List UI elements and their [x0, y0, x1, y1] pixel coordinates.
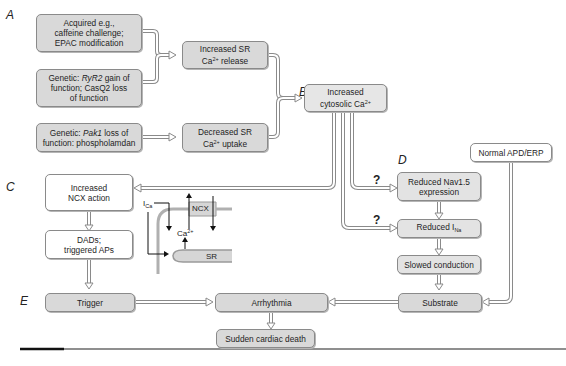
arrow-dads-to-trigger [85, 258, 93, 289]
ncx-line2: NCX action [68, 193, 110, 203]
increased-sr-release-box: Increased SR Ca2+ release [182, 41, 268, 69]
section-label-c: C [6, 180, 15, 194]
nav-line1: Reduced Nav1.5 [408, 177, 470, 187]
acquired-line2: caffeine challenge; [54, 28, 123, 38]
sr-uptake-rest: uptake [220, 139, 247, 149]
scd-label: Sudden cardiac death [225, 334, 306, 344]
arrow-nav-to-ina [435, 201, 443, 219]
cytosolic-line1: Increased [320, 87, 371, 97]
arrow-a-to-release [141, 31, 176, 82]
sr-release-line1: Increased SR [200, 44, 250, 54]
ca-text: Ca [202, 56, 213, 66]
section-label-e: E [20, 294, 28, 308]
cytosolic-text: cytosolic Ca [320, 99, 365, 109]
genetic-ryr2-box: Genetic: RyR2 gain of function; CasQ2 lo… [36, 69, 142, 107]
acquired-line1: Acquired e.g., [54, 18, 123, 28]
acquired-line3: EPAC modification [54, 38, 123, 48]
ca-text: Ca [203, 139, 214, 149]
ryr2-gene: RyR2 [82, 73, 103, 83]
ina-text: Reduced INa [417, 222, 462, 235]
trigger-box: Trigger [45, 293, 135, 312]
question-mark-nav: ? [373, 173, 380, 187]
arrow-pak1-to-uptake [141, 133, 176, 141]
arrow-substrate-to-arrhythmia [328, 298, 398, 306]
acquired-box: Acquired e.g., caffeine challenge; EPAC … [36, 14, 142, 52]
nav-line2: expression [408, 187, 470, 197]
ryr2-line1: Genetic: RyR2 gain of [48, 73, 129, 83]
question-mark-ina: ? [373, 213, 380, 227]
arrhythmia-box: Arrhythmia [215, 293, 328, 312]
arrow-ina-to-slowed [435, 238, 443, 255]
ica-sub: Ca [145, 203, 152, 209]
decreased-sr-uptake-box: Decreased SR Ca2+ uptake [182, 123, 268, 152]
ina-sub: Na [454, 227, 461, 233]
sudden-cardiac-death-box: Sudden cardiac death [216, 329, 315, 348]
cytosolic-line2: cytosolic Ca2+ [320, 97, 371, 109]
section-label-d: D [398, 153, 407, 167]
sr-uptake-line2: Ca2+ uptake [198, 137, 252, 149]
arrow-arrhythmia-to-scd [267, 313, 275, 329]
increased-ncx-box: Increased NCX action [45, 174, 133, 211]
slowed-conduction-box: Slowed conduction [397, 255, 481, 274]
pak1-line2: function: phospholamdan [43, 138, 136, 148]
sr-compartment [173, 250, 232, 262]
arrow-trigger-to-arrhythmia [135, 298, 213, 306]
inset-ca-text: Ca [177, 229, 187, 238]
sr-label: SR [206, 252, 217, 261]
pak1-post: loss of [102, 128, 128, 138]
ica-label: ICa [143, 199, 152, 209]
increased-cytosolic-ca-box: Increased cytosolic Ca2+ [304, 84, 387, 112]
substrate-box: Substrate [398, 293, 482, 312]
normal-apd-label: Normal APD/ERP [478, 148, 543, 158]
ina-main: Reduced I [417, 222, 455, 232]
inset-ca-charge: 2+ [187, 228, 193, 234]
ryr2-post: gain of [102, 73, 129, 83]
trigger-label: Trigger [77, 298, 103, 308]
substrate-label: Substrate [422, 298, 458, 308]
arrow-slowed-to-substrate [435, 273, 443, 290]
inset-ca-label: Ca2+ [177, 228, 194, 238]
ncx-line1: Increased [68, 183, 110, 193]
dads-line1: DADs; [64, 235, 114, 245]
sr-release-rest: release [219, 56, 249, 66]
slowed-label: Slowed conduction [404, 260, 474, 270]
genetic-pak1-box: Genetic: Pak1 loss of function: phosphol… [36, 123, 142, 152]
normal-apd-erp-box: Normal APD/ERP [470, 143, 552, 162]
sr-uptake-line1: Decreased SR [198, 127, 252, 137]
pak1-line1: Genetic: Pak1 loss of [43, 128, 136, 138]
reduced-nav15-box: Reduced Nav1.5 expression [397, 172, 481, 201]
arrhythmia-label: Arrhythmia [251, 298, 291, 308]
pak1-pre: Genetic: [50, 128, 83, 138]
arrow-normal-apd-to-substrate [482, 161, 511, 306]
sr-release-line2: Ca2+ release [200, 54, 250, 66]
ca-charge: 2+ [365, 99, 371, 105]
arrow-ncx-to-dads [85, 211, 93, 231]
dads-box: DADs; triggered APs [45, 230, 133, 259]
section-label-a: A [6, 8, 14, 22]
arrow-sr-to-cytosolic [267, 55, 302, 137]
reduced-ina-box: Reduced INa [397, 219, 481, 238]
ncx-label: NCX [192, 204, 209, 213]
ryr2-pre: Genetic: [48, 73, 81, 83]
pak1-gene: Pak1 [83, 128, 102, 138]
dads-line2: triggered APs [64, 245, 114, 255]
ryr2-line2: function; CasQ2 loss [48, 83, 129, 93]
ryr2-line3: of function [48, 93, 129, 103]
